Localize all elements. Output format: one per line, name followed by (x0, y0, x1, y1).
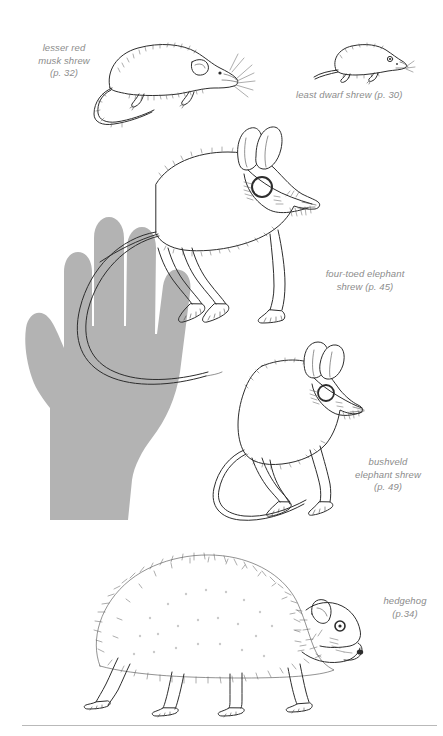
illustration-plate: lesser red musk shrew (p. 32) least dwar… (0, 0, 443, 736)
figure-least-dwarf-shrew (312, 36, 416, 90)
caption-bushveld-elephant-shrew: bushveld elephant shrew (p. 49) (340, 456, 436, 494)
bottom-rule (22, 725, 437, 726)
figure-hedgehog (44, 542, 362, 706)
caption-lesser-red-musk-shrew: lesser red musk shrew (p. 32) (14, 42, 114, 80)
caption-hedgehog: hedgehog (p.34) (372, 595, 438, 620)
caption-four-toed-elephant-shrew: four-toed elephant shrew (p. 45) (300, 268, 430, 293)
caption-least-dwarf-shrew: least dwarf shrew (p. 30) (296, 89, 436, 102)
